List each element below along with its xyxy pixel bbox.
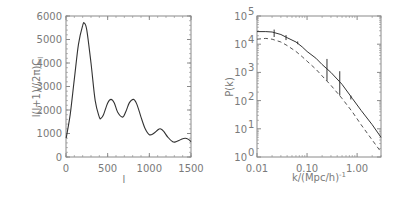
svg-text:1500: 1500 xyxy=(178,163,203,174)
svg-text:0: 0 xyxy=(63,163,69,174)
svg-text:5: 5 xyxy=(248,6,254,17)
svg-text:10: 10 xyxy=(234,11,247,22)
svg-text:4: 4 xyxy=(248,34,254,45)
left-x-axis-label: l xyxy=(123,174,126,185)
left-axis-ticks xyxy=(66,16,191,157)
svg-text:5000: 5000 xyxy=(37,34,62,45)
matter-power-panel: 0.010.101.00100101102103104105 k/(Mpc/h)… xyxy=(224,6,381,183)
svg-text:1.00: 1.00 xyxy=(346,163,368,174)
svg-text:0: 0 xyxy=(248,147,254,158)
right-plot-frame xyxy=(257,16,381,157)
pk-solid-curve xyxy=(257,32,381,138)
right-tick-labels: 0.010.101.00100101102103104105 xyxy=(234,6,368,174)
svg-text:10: 10 xyxy=(234,96,247,107)
svg-text:0.01: 0.01 xyxy=(246,163,268,174)
cmb-power-curve xyxy=(66,23,191,143)
svg-text:500: 500 xyxy=(98,163,117,174)
svg-text:1: 1 xyxy=(248,119,254,130)
left-tick-labels: 0500100015000100020003000400050006000 xyxy=(37,11,204,175)
svg-text:1000: 1000 xyxy=(37,128,62,139)
pk-dashed-curve xyxy=(257,38,381,152)
svg-text:10: 10 xyxy=(234,67,247,78)
left-plot-frame xyxy=(66,16,191,157)
svg-text:0: 0 xyxy=(56,152,62,163)
svg-text:10: 10 xyxy=(234,152,247,163)
svg-text:10: 10 xyxy=(234,39,247,50)
right-axis-ticks xyxy=(257,16,381,157)
right-y-axis-label: P(k) xyxy=(224,77,235,97)
svg-text:1000: 1000 xyxy=(137,163,162,174)
figure: 0500100015000100020003000400050006000 l … xyxy=(0,0,398,199)
svg-text:10: 10 xyxy=(234,124,247,135)
svg-text:6000: 6000 xyxy=(37,11,62,22)
pk-error-bars xyxy=(274,30,351,100)
right-x-axis-label: k/(Mpc/h)-1 xyxy=(292,171,346,183)
svg-text:3: 3 xyxy=(248,62,254,73)
svg-text:2: 2 xyxy=(248,91,254,102)
cmb-spectrum-panel: 0500100015000100020003000400050006000 l … xyxy=(31,11,204,186)
